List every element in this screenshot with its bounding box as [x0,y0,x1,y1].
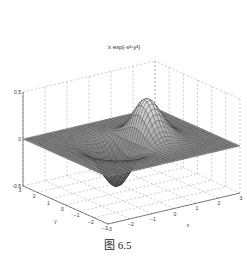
svg-text:−1: −1 [150,216,156,222]
svg-text:3: 3 [240,195,243,201]
svg-text:0: 0 [61,206,64,212]
svg-text:0: 0 [18,136,21,142]
figure-caption: 图 6.5 [104,236,132,252]
svg-text:0.5: 0.5 [14,89,21,95]
svg-text:x: x [187,222,190,228]
chart-title: x exp(-x²-y²) [108,44,140,50]
svg-text:1: 1 [196,205,199,211]
svg-text:−2: −2 [128,221,134,227]
surface-plot: -0.500.5−3−2−10123−3−2−10123xy [0,0,247,259]
svg-text:−1: −1 [74,212,80,218]
surface-mesh [23,98,240,186]
svg-text:3: 3 [19,187,22,193]
svg-text:1: 1 [47,200,50,206]
svg-text:−2: −2 [88,219,94,225]
svg-text:2: 2 [33,193,36,199]
svg-text:−3: −3 [102,225,108,231]
svg-text:y: y [54,218,57,224]
svg-text:2: 2 [218,200,221,206]
svg-text:0: 0 [174,211,177,217]
